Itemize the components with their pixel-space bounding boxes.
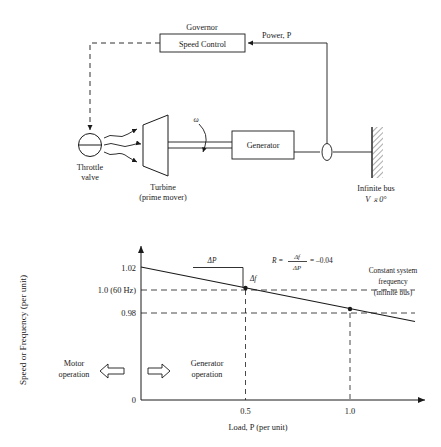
- turbine-shape: [143, 115, 168, 176]
- right-arrow-icon: [148, 364, 170, 378]
- figure-svg: Governor Speed Control Power, P Throttle…: [0, 0, 441, 447]
- omega-symbol: ω: [193, 115, 198, 124]
- generator-operation-line2: operation: [192, 370, 223, 379]
- infinite-bus-label: Infinite bus: [357, 184, 395, 193]
- power-label: Power, P: [262, 31, 292, 40]
- droop-eq-numerator: Δf: [293, 253, 301, 260]
- left-arrow-icon: [100, 364, 124, 378]
- generator-operation-line1: Generator: [191, 359, 224, 368]
- y-tick-label-1p00: 1.0 (60 Hz): [98, 286, 137, 295]
- governor-caption: Governor: [186, 23, 218, 32]
- y-axis-title: Speed or Frequency (per unit): [18, 275, 28, 385]
- droop-eq-R: R =: [271, 256, 283, 265]
- steam-flow-arrows: [104, 129, 141, 162]
- x-tick-label-1p0: 1.0: [345, 407, 355, 416]
- motor-operation-line1: Motor: [64, 359, 85, 368]
- constant-frequency-line2: frequency: [378, 277, 408, 286]
- top-schematic: Governor Speed Control Power, P Throttle…: [77, 23, 395, 204]
- y-tick-label-0p98: 0.98: [121, 309, 136, 318]
- y-origin-label: 0: [132, 396, 136, 405]
- delta-f-label: Δf: [249, 274, 257, 283]
- constant-frequency-line1: Constant system: [369, 266, 418, 275]
- x-tick-label-0p5: 0.5: [240, 407, 250, 416]
- figure-root: Governor Speed Control Power, P Throttle…: [0, 0, 441, 447]
- droop-eq-value: = –0.04: [310, 256, 333, 265]
- turbine-label-line2: (prime mover): [139, 193, 187, 202]
- speed-control-label: Speed Control: [179, 40, 227, 49]
- turbine-label-line1: Turbine: [150, 183, 176, 192]
- x-axis-title: Load, P (per unit): [228, 423, 287, 432]
- turbine-generator-shaft: [168, 142, 232, 148]
- generator-label: Generator: [247, 141, 280, 150]
- delta-step-bracket: [193, 268, 243, 289]
- data-point: [348, 307, 352, 311]
- motor-operation-line2: operation: [59, 370, 90, 379]
- infinite-bus-voltage: V ⌅0°: [365, 195, 387, 204]
- droop-chart: Speed or Frequency (per unit) 1.02 1.0 (…: [18, 246, 425, 432]
- throttle-label-line2: valve: [81, 173, 99, 182]
- droop-equation: R = Δf ΔP = –0.04: [271, 253, 333, 271]
- governor-control-dashed-line: [90, 43, 160, 130]
- throttle-label-line1: Throttle: [77, 163, 104, 172]
- delta-p-label: ΔP: [207, 256, 217, 265]
- data-point: [243, 286, 247, 290]
- constant-frequency-line3: (infinite bus): [374, 288, 413, 297]
- droop-eq-denominator: ΔP: [292, 264, 301, 271]
- infinite-bus-icon: [372, 127, 383, 178]
- power-sensor-icon: [322, 144, 332, 161]
- y-tick-label-1p02: 1.02: [121, 264, 136, 273]
